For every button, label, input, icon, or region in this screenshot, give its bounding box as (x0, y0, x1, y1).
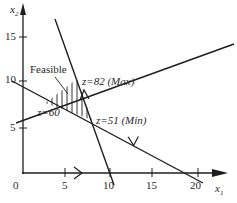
x-tick-15: 15 (146, 180, 157, 191)
y-tick-15: 15 (5, 31, 16, 42)
y-axis-arrow-icon (20, 3, 26, 15)
y-axis-label: x2 (10, 4, 18, 18)
x-tick-10: 10 (103, 180, 114, 191)
linear-programming-diagram: x2 x1 15 10 5 0 5 10 15 20 Feasible z=82… (0, 0, 237, 203)
x-axis (22, 167, 228, 179)
x-axis-label: x1 (215, 183, 223, 197)
z-60-label: z=60 (37, 107, 60, 118)
x-tick-5: 5 (62, 180, 68, 191)
y-tick-10: 10 (5, 74, 16, 85)
plot-canvas (0, 0, 237, 203)
x-tick-0: 0 (13, 180, 19, 191)
x-axis-arrow-icon (212, 169, 228, 177)
z-max-label: z=82 (Max) (82, 76, 134, 87)
x-tick-20: 20 (190, 180, 201, 191)
y-tick-5: 5 (10, 122, 16, 133)
z-min-label: z=51 (Min) (96, 115, 147, 126)
feasible-label: Feasible (30, 64, 67, 75)
